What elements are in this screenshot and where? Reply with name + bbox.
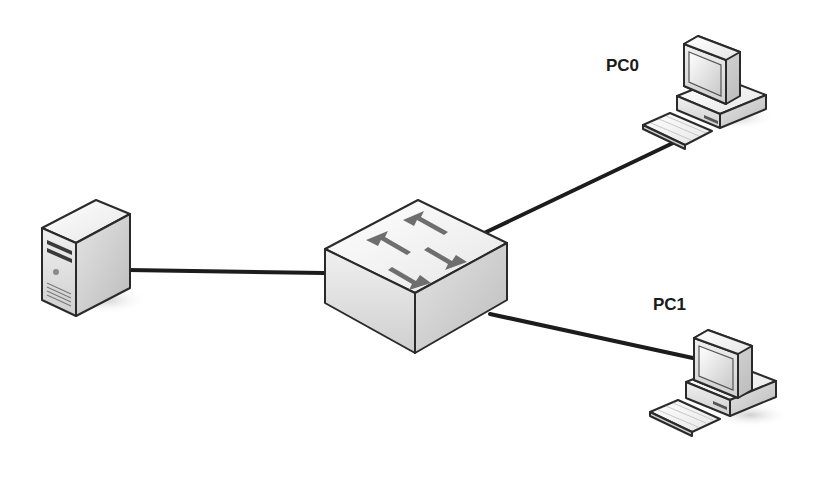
pc0-icon[interactable] bbox=[643, 36, 775, 149]
pc1-label: PC1 bbox=[653, 295, 686, 314]
switch-icon[interactable] bbox=[325, 200, 507, 353]
link-switch-pc1 bbox=[490, 314, 702, 360]
link-server-switch bbox=[128, 270, 324, 273]
pc1-icon[interactable] bbox=[650, 330, 790, 436]
pc0-label: PC0 bbox=[606, 56, 639, 75]
server-icon[interactable] bbox=[42, 200, 147, 316]
link-switch-pc0 bbox=[480, 143, 673, 235]
network-diagram: PC0 PC1 bbox=[0, 0, 818, 480]
